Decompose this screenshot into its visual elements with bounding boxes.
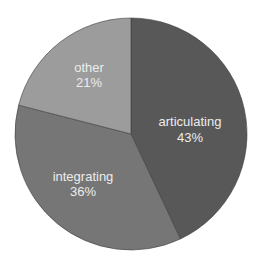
slice-value-other: 21% (76, 75, 102, 90)
slice-value-integrating: 36% (70, 184, 96, 199)
slice-label-other: other (74, 60, 104, 75)
slice-label-integrating: integrating (53, 169, 114, 184)
pie-slices (15, 18, 247, 250)
pie-chart: articulating 43% integrating 36% other 2… (0, 0, 259, 264)
slice-value-articulating: 43% (177, 130, 203, 145)
slice-label-articulating: articulating (159, 114, 222, 129)
